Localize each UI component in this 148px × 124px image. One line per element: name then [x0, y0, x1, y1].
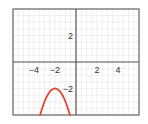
graph-plot: −4−224 2−2 [0, 0, 148, 124]
y-tick-label: 2 [68, 31, 73, 41]
x-tick-label: 4 [115, 65, 120, 75]
x-tick-labels: −4−224 [29, 65, 121, 75]
y-tick-label: −2 [63, 84, 73, 94]
x-tick-label: −4 [29, 65, 39, 75]
x-tick-label: −2 [50, 65, 60, 75]
x-tick-label: 2 [94, 65, 99, 75]
